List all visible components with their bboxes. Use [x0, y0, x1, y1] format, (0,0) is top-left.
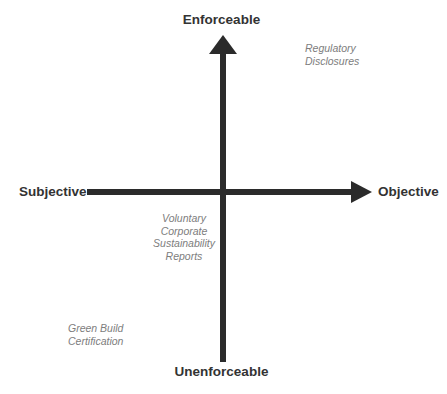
annotation-line: Green Build — [68, 322, 123, 335]
axis-label-objective: Objective — [378, 184, 439, 200]
axis-label-unenforceable: Unenforceable — [0, 364, 447, 380]
annotation-line: Sustainability — [148, 237, 220, 250]
up-arrow-icon — [209, 35, 237, 54]
annotation-line: Corporate — [148, 225, 220, 238]
annotation-green-build-certification: Green Build Certification — [68, 322, 123, 347]
horizontal-axis-line — [87, 189, 352, 195]
annotation-line: Voluntary — [148, 212, 220, 225]
axis-label-subjective: Subjective — [19, 184, 87, 200]
quadrant-diagram: Enforceable Unenforceable Subjective Obj… — [0, 0, 447, 394]
annotation-voluntary-corporate-sustainability-reports: Voluntary Corporate Sustainability Repor… — [148, 212, 220, 262]
annotation-line: Regulatory — [305, 42, 359, 55]
annotation-line: Disclosures — [305, 55, 359, 68]
vertical-axis-line — [220, 52, 226, 362]
annotation-regulatory-disclosures: Regulatory Disclosures — [305, 42, 359, 67]
annotation-line: Certification — [68, 335, 123, 348]
right-arrow-icon — [351, 181, 372, 203]
axis-label-enforceable: Enforceable — [0, 12, 447, 28]
annotation-line: Reports — [148, 250, 220, 263]
